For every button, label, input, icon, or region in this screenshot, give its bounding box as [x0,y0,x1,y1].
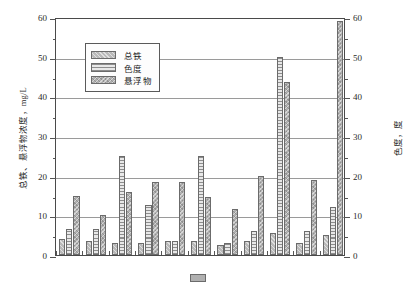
bar-总铁 [270,233,276,255]
bar-悬浮物 [258,176,264,255]
bar-色度 [251,231,257,255]
bar-悬浮物 [232,209,238,255]
bar-group [59,19,80,255]
y-tick-minor-right [344,79,348,80]
y-tick-label-right: 30 [353,133,362,142]
legend-item-0: 总铁 [91,50,152,61]
y-tick-minor-right [344,39,348,40]
bar-色度 [93,229,99,255]
legend-item-1: 色度 [91,62,152,73]
y-tick-label-left: 10 [38,212,47,221]
bar-group [165,19,186,255]
bar-总铁 [138,243,144,255]
bar-group [323,19,344,255]
bar-group [217,19,238,255]
caption-marker [190,274,206,282]
figure-caption [0,272,399,282]
bar-总铁 [244,241,250,255]
bar-group [270,19,291,255]
bar-总铁 [59,239,65,255]
bar-色度 [66,229,72,255]
bar-总铁 [86,241,92,255]
legend-label-chromaticity: 色度 [124,62,143,74]
y-tick-label-right: 0 [353,252,358,261]
y-tick-label-right: 60 [353,14,362,23]
bar-色度 [145,205,151,255]
y-tick-major-right [344,19,350,20]
bar-悬浮物 [100,215,106,255]
legend-label-iron: 总铁 [124,49,143,61]
legend-item-2: 悬浮物 [91,75,152,86]
bar-色度 [119,156,125,255]
y-tick-major-right [344,59,350,60]
y-axis-left-title: 总铁、悬浮物浓度，mg/L [16,63,28,213]
bar-group [191,19,212,255]
bar-悬浮物 [179,182,185,255]
y-tick-label-left: 60 [38,14,47,23]
y-tick-major-left [50,257,56,258]
bar-group [296,19,317,255]
bar-总铁 [165,241,171,255]
bar-悬浮物 [337,21,343,255]
y-tick-minor-right [344,158,348,159]
y-tick-major-right [344,257,350,258]
legend-swatch-chromaticity [91,63,116,72]
y-tick-label-left: 30 [38,133,47,142]
y-axis-right-title: 色度，度 [391,63,403,213]
bar-色度 [172,241,178,255]
bar-悬浮物 [152,182,158,255]
y-tick-label-left: 20 [38,173,47,182]
plot-area: 0102030405060 0102030405060 总铁 色度 悬浮物 [55,18,345,256]
bar-悬浮物 [73,196,79,256]
y-tick-label-left: 50 [38,54,47,63]
bar-总铁 [217,245,223,255]
y-tick-minor-right [344,198,348,199]
bar-总铁 [296,243,302,255]
legend-swatch-iron [91,51,116,60]
legend-swatch-suspended-solids [91,76,116,85]
y-tick-major-right [344,217,350,218]
y-tick-major-right [344,138,350,139]
y-tick-minor-right [344,118,348,119]
bar-悬浮物 [311,180,317,255]
y-tick-major-right [344,98,350,99]
bar-色度 [277,57,283,255]
y-tick-label-right: 50 [353,54,362,63]
bar-group [244,19,265,255]
y-tick-label-left: 0 [43,252,48,261]
plot-inner: 0102030405060 0102030405060 总铁 色度 悬浮物 [56,19,344,255]
bar-悬浮物 [126,192,132,255]
bar-总铁 [191,241,197,255]
bar-总铁 [112,243,118,255]
bar-色度 [198,156,204,255]
y-tick-minor-right [344,237,348,238]
chart-legend: 总铁 色度 悬浮物 [85,43,160,92]
bar-悬浮物 [284,82,290,255]
bar-总铁 [323,235,329,255]
bar-色度 [330,207,336,255]
y-tick-label-left: 40 [38,93,47,102]
y-tick-major-right [344,178,350,179]
legend-label-suspended-solids: 悬浮物 [124,74,152,86]
bar-色度 [224,243,230,255]
bar-悬浮物 [205,197,211,255]
y-tick-label-right: 20 [353,173,362,182]
bar-色度 [304,231,310,255]
y-tick-label-right: 40 [353,93,362,102]
y-tick-label-right: 10 [353,212,362,221]
